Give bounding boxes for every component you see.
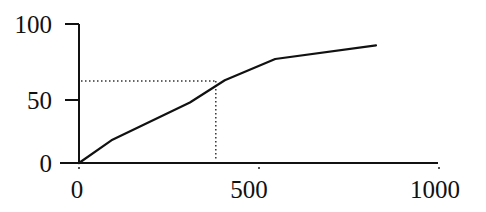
chart: 05010005001000 [0,0,486,212]
series [79,45,376,163]
y-tick-label-100: 100 [15,11,53,38]
x-tick-0 [78,167,80,169]
x-tick-label-1000: 1000 [410,176,460,203]
y-tick-label-0: 0 [40,150,53,177]
reference-lines [81,81,216,161]
x-tick-1000 [438,167,440,169]
x-tick-label-500: 500 [230,176,268,203]
y-tick-label-50: 50 [27,87,52,114]
series-line-curve [79,45,376,163]
axes [60,24,440,169]
tick-labels: 05010005001000 [15,11,461,203]
x-tick-label-0: 0 [71,176,84,203]
x-tick-500 [258,167,260,169]
